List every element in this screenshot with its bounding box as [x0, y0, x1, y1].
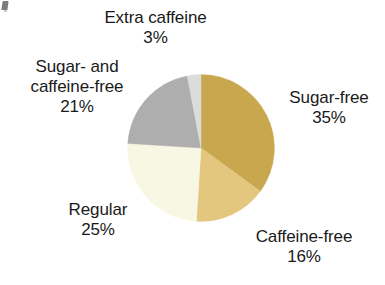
slice-label-extra-caffeine-pct: 3%	[0, 28, 311, 48]
slice-label-extra-caffeine-name: Extra caffeine	[104, 8, 206, 27]
slice-label-sugar-and-caffeine-free-line2: caffeine-free	[14, 77, 140, 97]
slice-label-sugar-and-caffeine-free: Sugar- and caffeine-free 21%	[14, 57, 140, 117]
slice-label-caffeine-free-pct: 16%	[240, 247, 368, 267]
slice-label-sugar-free-name: Sugar-free	[289, 88, 368, 107]
slice-label-sugar-and-caffeine-free-pct: 21%	[14, 97, 140, 117]
slice-label-caffeine-free: Caffeine-free 16%	[240, 227, 368, 267]
slice-label-sugar-free: Sugar-free 35%	[279, 88, 379, 128]
pie-chart-figure: Extra caffeine 3% Sugar- and caffeine-fr…	[0, 0, 385, 285]
slice-label-caffeine-free-name: Caffeine-free	[256, 227, 353, 246]
slice-label-regular: Regular 25%	[42, 200, 154, 240]
slice-label-extra-caffeine: Extra caffeine 3%	[0, 8, 385, 48]
slice-label-sugar-and-caffeine-free-line1: Sugar- and	[35, 57, 118, 76]
slice-label-regular-name: Regular	[69, 200, 128, 219]
slice-label-regular-pct: 25%	[42, 220, 154, 240]
slice-label-sugar-free-pct: 35%	[279, 108, 379, 128]
